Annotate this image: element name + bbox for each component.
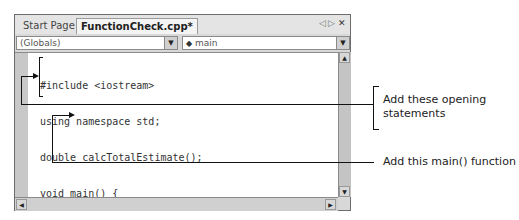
callout-line: [21, 104, 373, 105]
code-text[interactable]: #include <iostream> using namespace std;…: [40, 56, 299, 220]
chevron-down-icon[interactable]: ▼: [336, 37, 349, 49]
tab-bar: Start Page FunctionCheck.cpp* ◁ ▷ ✕: [15, 15, 350, 35]
method-icon: ◆: [186, 39, 192, 48]
code-line: using namespace std;: [40, 116, 299, 128]
annotation-opening-statements: Add these opening statements: [383, 93, 486, 121]
callout-line: [21, 76, 22, 105]
annotation-line: statements: [383, 107, 486, 121]
scroll-up-icon[interactable]: ▲: [339, 52, 350, 63]
scope-dropdown[interactable]: (Globals) ▼: [16, 36, 178, 50]
chevron-down-icon[interactable]: ▼: [164, 37, 177, 49]
arrow-icon: [33, 73, 39, 79]
member-dropdown[interactable]: ◆ main ▼: [182, 36, 350, 50]
tab-functioncheck-cpp[interactable]: FunctionCheck.cpp*: [76, 18, 198, 34]
callout-line: [21, 76, 33, 77]
editor-window: Start Page FunctionCheck.cpp* ◁ ▷ ✕ (Glo…: [14, 14, 351, 211]
vertical-scrollbar[interactable]: ▲ ▼: [338, 52, 351, 197]
tab-start-page[interactable]: Start Page: [19, 18, 79, 34]
callout-line: [52, 115, 53, 163]
arrow-icon: [69, 112, 75, 118]
code-editor[interactable]: #include <iostream> using namespace std;…: [15, 52, 338, 198]
editor-gutter: [15, 53, 28, 198]
annotation-line: Add these opening: [383, 93, 486, 107]
callout-bracket: [373, 86, 379, 87]
code-line: #include <iostream>: [40, 80, 299, 92]
callout-bracket: [373, 86, 374, 130]
tab-next-icon[interactable]: ▷: [328, 18, 335, 28]
callout-bracket: [39, 57, 40, 97]
scroll-left-icon[interactable]: ◀: [16, 199, 27, 210]
callout-bracket: [39, 57, 43, 58]
annotation-main-function: Add this main() function: [383, 155, 516, 169]
callout-bracket: [39, 96, 43, 97]
scope-dropdown-value: (Globals): [20, 38, 60, 48]
scroll-right-icon[interactable]: ▶: [325, 199, 336, 210]
horizontal-scrollbar[interactable]: ◀ ▶: [15, 197, 338, 211]
callout-line: [52, 115, 69, 116]
close-icon[interactable]: ✕: [338, 18, 346, 28]
callout-line: [52, 162, 374, 163]
navigation-bar: (Globals) ▼ ◆ main ▼: [15, 34, 350, 52]
member-dropdown-value: main: [195, 38, 218, 48]
callout-bracket: [373, 129, 379, 130]
tab-prev-icon[interactable]: ◁: [319, 18, 326, 28]
scroll-down-icon[interactable]: ▼: [339, 186, 350, 197]
